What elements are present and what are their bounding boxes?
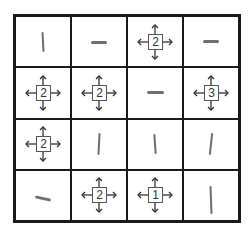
clue-cell: 1 bbox=[135, 175, 175, 215]
cell-r3c0[interactable] bbox=[15, 170, 71, 221]
clue-number: 2 bbox=[92, 85, 107, 101]
cell-r2c0[interactable]: 2 bbox=[15, 119, 71, 170]
horizontal-line-mark bbox=[203, 40, 219, 43]
clue-number: 2 bbox=[92, 187, 107, 203]
cell-r3c2[interactable]: 1 bbox=[127, 170, 183, 221]
cell-r0c2[interactable]: 2 bbox=[127, 16, 183, 67]
cell-r1c1[interactable]: 2 bbox=[71, 67, 127, 118]
cell-r0c3[interactable] bbox=[183, 16, 239, 67]
clue-cell: 2 bbox=[135, 22, 175, 62]
clue-cell: 2 bbox=[23, 124, 63, 164]
clue-number: 2 bbox=[36, 136, 51, 152]
vertical-line-mark bbox=[210, 186, 213, 214]
cell-r3c1[interactable]: 2 bbox=[71, 170, 127, 221]
clue-number: 2 bbox=[148, 34, 163, 50]
cell-r2c2[interactable] bbox=[127, 119, 183, 170]
cell-r2c1[interactable] bbox=[71, 119, 127, 170]
horizontal-line-mark bbox=[35, 195, 51, 201]
horizontal-line-mark bbox=[91, 41, 107, 44]
cell-r3c3[interactable] bbox=[183, 170, 239, 221]
clue-cell: 2 bbox=[23, 73, 63, 113]
vertical-line-mark bbox=[41, 32, 44, 52]
cell-r2c3[interactable] bbox=[183, 119, 239, 170]
clue-cell: 2 bbox=[79, 73, 119, 113]
clue-cell: 2 bbox=[79, 175, 119, 215]
cell-r1c2[interactable] bbox=[127, 67, 183, 118]
vertical-line-mark bbox=[97, 133, 100, 155]
clue-number: 2 bbox=[36, 85, 51, 101]
clue-cell: 3 bbox=[191, 73, 231, 113]
clue-number: 3 bbox=[204, 85, 219, 101]
puzzle-grid: 2 2 2 3 2 2 bbox=[13, 14, 241, 223]
horizontal-line-mark bbox=[147, 91, 164, 94]
cell-r0c1[interactable] bbox=[71, 16, 127, 67]
cell-r1c0[interactable]: 2 bbox=[15, 67, 71, 118]
clue-number: 1 bbox=[148, 187, 163, 203]
cell-r1c3[interactable]: 3 bbox=[183, 67, 239, 118]
vertical-line-mark bbox=[209, 133, 213, 155]
cell-r0c0[interactable] bbox=[15, 16, 71, 67]
vertical-line-mark bbox=[153, 134, 156, 154]
